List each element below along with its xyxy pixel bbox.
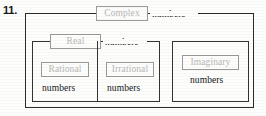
set-label-irrational: Irrational <box>106 62 154 77</box>
set-label-rational: Rational <box>41 62 89 77</box>
set-word-rational: numbers <box>42 82 75 94</box>
set-word-irrational: numbers <box>107 82 140 94</box>
border-gap-real-word <box>103 39 147 44</box>
divider-rational-irrational <box>97 41 98 102</box>
set-box-imaginary <box>172 41 249 102</box>
set-label-complex: Complex <box>96 6 148 21</box>
exercise-number: 11. <box>3 4 17 16</box>
border-gap-complex-word <box>150 11 198 16</box>
set-label-real: Real <box>50 34 101 49</box>
set-label-imaginary: Imaginary <box>182 55 239 70</box>
set-word-imaginary: numbers <box>190 74 223 86</box>
diagram-page: 11. Complex numbers Real numbers Rationa… <box>0 0 266 116</box>
